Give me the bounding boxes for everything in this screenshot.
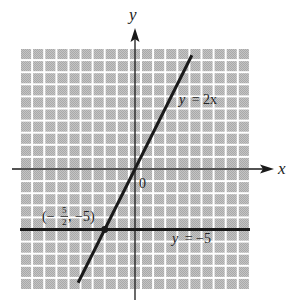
x-axis-label: x [277,159,286,178]
svg-text:5: 5 [62,205,67,215]
graph-figure: y x 0 y = 2x y = −5 (− 5 2 , −5) [0,0,287,308]
intersection-point [101,226,108,233]
label-y-equals-2x: y = 2x [177,92,217,107]
svg-text:2: 2 [62,217,67,227]
label-y-equals-minus-5: y = −5 [170,231,211,246]
svg-text:, −5): , −5) [68,209,95,225]
svg-text:(−: (− [42,209,55,225]
label-intersection-point: (− 5 2 , −5) [42,205,95,227]
y-axis-label: y [127,5,137,24]
origin-label: 0 [139,176,146,191]
